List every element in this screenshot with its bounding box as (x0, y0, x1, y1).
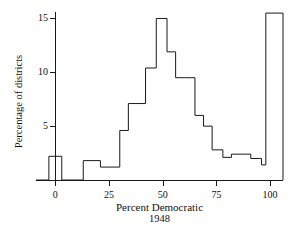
histogram-outline (0, 0, 297, 226)
x-axis-subtitle: 1948 (36, 213, 283, 224)
histogram-figure: Percentage of districts 51015 0255075100… (0, 0, 297, 226)
x-axis-title: Percent Democratic (36, 201, 283, 213)
histogram-step-path (36, 13, 283, 180)
